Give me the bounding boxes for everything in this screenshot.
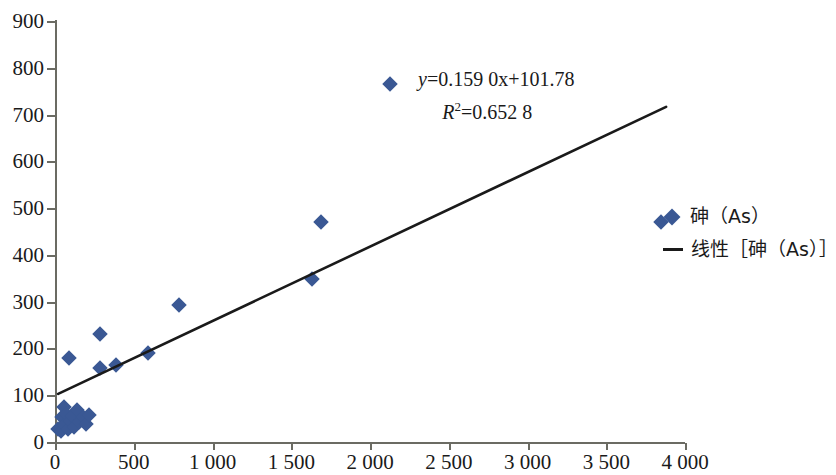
- legend-label-trendline: 线性［砷（As）］: [691, 233, 836, 266]
- diamond-marker-icon: [664, 208, 681, 225]
- legend-item-trendline: 线性［砷（As）］: [663, 233, 836, 266]
- legend-label-series: 砷（As）: [690, 200, 770, 233]
- regression-equation-annotation: y=0.159 0x+101.78 R2=0.652 8: [418, 66, 574, 126]
- line-marker-icon: [663, 248, 683, 251]
- r-squared-variable: R: [442, 101, 454, 123]
- chart-legend: 砷（As） 线性［砷（As）］: [663, 200, 836, 266]
- legend-item-series: 砷（As）: [663, 200, 836, 233]
- r-squared-body: =0.652 8: [461, 101, 532, 123]
- equation-y-variable: y: [418, 68, 427, 90]
- equation-line: y=0.159 0x+101.78: [418, 66, 574, 93]
- scatter-chart: 0100200300400500600700800900 05001 0001 …: [0, 0, 836, 475]
- r-squared-line: R2=0.652 8: [418, 93, 574, 126]
- equation-body: =0.159 0x+101.78: [427, 68, 575, 90]
